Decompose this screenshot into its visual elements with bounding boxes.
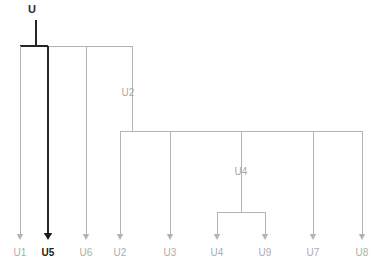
phylogenetic-tree-diagram: UU2U4U1U5U6U2U3U4U9U7U8 xyxy=(0,0,387,273)
leaf-u8-arrow-icon xyxy=(359,234,365,240)
leaf-u5-arrow-icon xyxy=(44,233,52,240)
leaf-u6-arrow-icon xyxy=(83,234,89,240)
leaf-u6-label: U6 xyxy=(80,247,93,258)
leaf-u8-label: U8 xyxy=(356,247,369,258)
root-label: U xyxy=(28,3,36,15)
leaf-u5-label: U5 xyxy=(42,247,55,258)
leaf-u3-arrow-icon xyxy=(167,234,173,240)
leaf-u1-label: U1 xyxy=(14,247,27,258)
leaf-u7-label: U7 xyxy=(307,247,320,258)
leaf-u7-arrow-icon xyxy=(310,234,316,240)
node-u2-label: U2 xyxy=(122,87,135,98)
node-u4-label: U4 xyxy=(235,166,248,177)
leaf-u4-label: U4 xyxy=(211,247,224,258)
leaf-u3-label: U3 xyxy=(164,247,177,258)
leaf-u2-arrow-icon xyxy=(117,234,123,240)
leaf-u4-arrow-icon xyxy=(214,234,220,240)
tree-svg-canvas: UU2U4U1U5U6U2U3U4U9U7U8 xyxy=(0,0,387,273)
leaf-u2-label: U2 xyxy=(114,247,127,258)
leaf-u9-label: U9 xyxy=(259,247,272,258)
leaf-u9-arrow-icon xyxy=(262,234,268,240)
leaf-u1-arrow-icon xyxy=(17,234,23,240)
